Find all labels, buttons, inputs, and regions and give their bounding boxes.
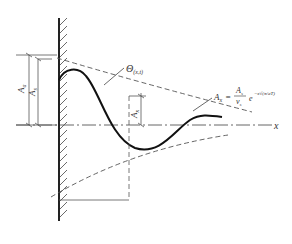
upper-envelope xyxy=(57,58,252,112)
svg-text:e: e xyxy=(249,94,253,103)
temperature-wave-diagram: x Aa As Ax Θ(x,t) xyxy=(0,0,292,244)
svg-text:−x√(π/aT): −x√(π/aT) xyxy=(254,91,275,96)
theta-label: Θ(x,t) xyxy=(126,63,143,76)
svg-text:As: As xyxy=(235,86,243,96)
svg-text:vs: vs xyxy=(236,97,242,107)
label-A-x: Ax xyxy=(129,110,140,120)
wall-hatching xyxy=(59,18,67,218)
svg-text:Ax: Ax xyxy=(213,92,223,103)
formula-leader xyxy=(193,98,212,111)
svg-text:=: = xyxy=(225,92,231,102)
x-axis-label: x xyxy=(273,120,279,131)
lower-envelope xyxy=(51,135,228,197)
temperature-wave-curve xyxy=(59,70,222,150)
label-A-a: Aa xyxy=(16,85,27,95)
